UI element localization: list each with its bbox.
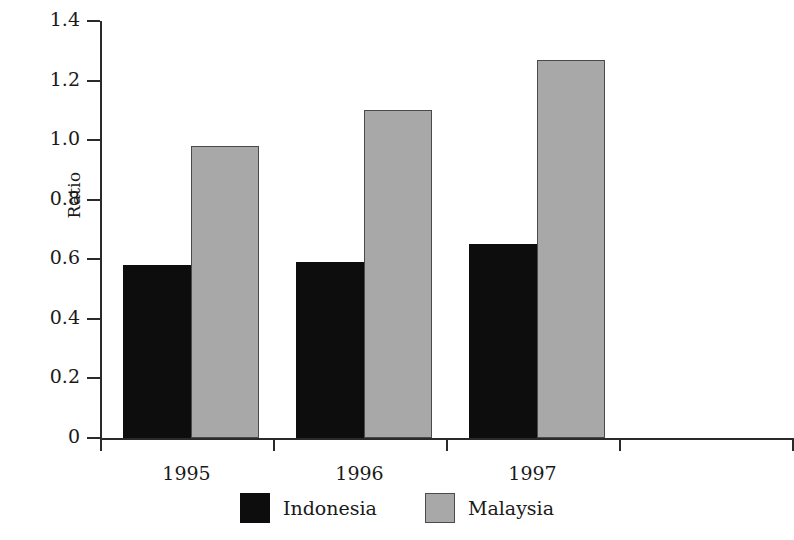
chart-legend: IndonesiaMalaysia xyxy=(0,493,794,523)
y-axis-tick-label: 0.2 xyxy=(50,365,80,387)
bar-1996-malaysia xyxy=(364,110,432,438)
y-axis-tick: 1.4 xyxy=(87,20,100,22)
y-axis-tick: 0.4 xyxy=(87,318,100,320)
bar-1995-malaysia xyxy=(191,146,259,438)
y-axis-tick-label: 1.4 xyxy=(50,8,80,30)
legend-label-indonesia: Indonesia xyxy=(283,497,377,519)
y-axis-tick-label: 0.4 xyxy=(50,306,80,328)
x-axis-tick xyxy=(446,438,448,451)
bar-1995-indonesia xyxy=(123,265,191,438)
y-axis-tick: 0 xyxy=(87,437,100,439)
legend-swatch-malaysia xyxy=(425,493,455,523)
y-axis-tick: 1.0 xyxy=(87,139,100,141)
bar-1997-malaysia xyxy=(537,60,605,438)
y-axis-tick-label: 0.8 xyxy=(50,187,80,209)
y-axis-tick: 0.6 xyxy=(87,258,100,260)
plot-area: 00.20.40.60.81.01.21.4 199519961997 xyxy=(100,21,794,439)
x-axis-tick-label: 1995 xyxy=(127,462,247,484)
legend-swatch-indonesia xyxy=(240,493,270,523)
legend-item-malaysia: Malaysia xyxy=(425,493,554,523)
x-axis-tick-label: 1996 xyxy=(300,462,420,484)
y-axis-tick: 0.8 xyxy=(87,199,100,201)
y-axis-tick-label: 0 xyxy=(68,425,80,447)
bar-1996-indonesia xyxy=(296,262,364,438)
y-axis-tick-label: 1.2 xyxy=(50,68,80,90)
y-axis-tick: 1.2 xyxy=(87,80,100,82)
x-axis-tick xyxy=(100,438,102,451)
y-axis-line xyxy=(100,21,102,440)
legend-item-indonesia: Indonesia xyxy=(240,493,377,523)
x-axis-tick xyxy=(273,438,275,451)
y-axis-tick: 0.2 xyxy=(87,377,100,379)
bar-1997-indonesia xyxy=(469,244,537,438)
y-axis-tick-label: 0.6 xyxy=(50,246,80,268)
bar-chart: Ratio 00.20.40.60.81.01.21.4 19951996199… xyxy=(0,0,794,540)
x-axis-tick-label: 1997 xyxy=(473,462,593,484)
legend-label-malaysia: Malaysia xyxy=(468,497,554,519)
y-axis-tick-label: 1.0 xyxy=(50,127,80,149)
x-axis-tick xyxy=(619,438,621,451)
